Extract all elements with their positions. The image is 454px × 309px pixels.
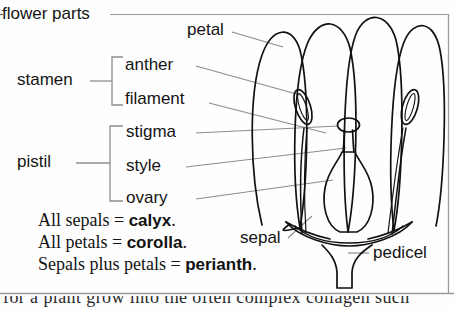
definition-perianth-term: perianth [185, 255, 252, 274]
ovary-label: ovary [126, 189, 168, 207]
stigma-label: stigma [126, 123, 176, 141]
stamen-bracket [112, 57, 123, 105]
pedicel [322, 245, 372, 288]
style-leader-line [186, 148, 346, 167]
definition-perianth-period: . [252, 254, 257, 274]
flower-anatomy-diagram: flower parts petal stamen anther filamen… [0, 0, 454, 309]
definition-perianth-equals: = [171, 254, 181, 274]
anther-left [290, 88, 315, 127]
definition-calyx-equals: = [114, 210, 124, 230]
definition-corolla-equals: = [112, 232, 122, 252]
stigma-leader-line [196, 126, 338, 133]
clipped-caption: for a plant grow into the often complex … [0, 296, 454, 309]
definition-corolla-subject: All petals [38, 232, 108, 252]
definition-perianth-subject: Sepals plus petals [38, 254, 166, 274]
stamen-label: stamen [17, 71, 73, 89]
definition-calyx-subject: All sepals [38, 210, 110, 230]
pistil-bracket [110, 126, 123, 201]
definition-calyx-term: calyx [129, 211, 172, 230]
definition-corolla-term: corolla [127, 233, 183, 252]
anther-left-inner [295, 93, 310, 122]
anther-right-inner [403, 93, 417, 122]
definition-calyx-period: . [171, 210, 176, 230]
definition-corolla: All petals = corolla. [38, 232, 187, 253]
ovary-leader-line [196, 180, 333, 199]
pistil-label: pistil [17, 153, 51, 171]
sepal-label: sepal [240, 229, 281, 247]
definition-perianth: Sepals plus petals = perianth. [38, 254, 257, 275]
flower-parts-label: flower parts [2, 5, 90, 23]
anther-leader-line [196, 66, 300, 95]
clipped-caption-text: for a plant grow into the often complex … [3, 296, 410, 308]
filament-label: filament [125, 90, 185, 108]
ovary [324, 152, 373, 232]
petal-label: petal [187, 21, 224, 39]
definition-corolla-period: . [182, 232, 187, 252]
definition-calyx: All sepals = calyx. [38, 210, 176, 231]
pedicel-label: pedicel [373, 244, 427, 262]
style-label: style [126, 157, 161, 175]
anther-label: anther [125, 56, 173, 74]
